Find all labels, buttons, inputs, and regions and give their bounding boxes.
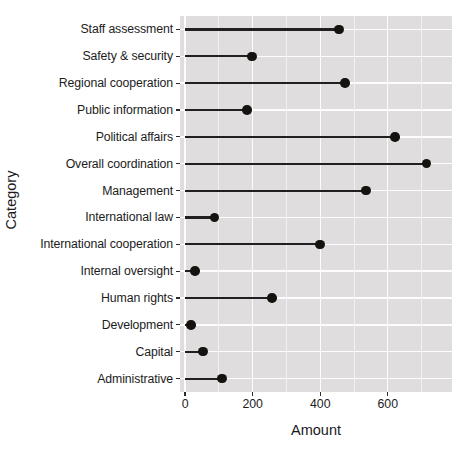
y-axis-tick-international-law: International law xyxy=(85,210,180,224)
lollipop-stem xyxy=(185,109,247,111)
x-axis-tick-label: 200 xyxy=(242,397,263,411)
lollipop-marker xyxy=(217,374,227,384)
lollipop-marker xyxy=(190,266,200,276)
x-axis-title: Amount xyxy=(180,422,452,438)
x-axis: 0200400600 xyxy=(180,392,452,422)
y-axis-tick-label: Overall coordination xyxy=(66,157,173,171)
y-axis-tick-public-information: Public information xyxy=(77,103,180,117)
y-axis-tick-development: Development xyxy=(102,318,180,332)
vertical-gridline-minor xyxy=(218,16,219,392)
vertical-gridline-major xyxy=(320,16,321,392)
lollipop-stem xyxy=(185,28,339,30)
horizontal-gridline xyxy=(180,324,452,325)
lollipop-marker xyxy=(198,347,208,357)
y-axis-tick-label: International cooperation xyxy=(40,237,173,251)
y-axis-tick-international-cooperation: International cooperation xyxy=(40,237,180,251)
vertical-gridline-minor xyxy=(421,16,422,392)
y-axis-title-text: Category xyxy=(3,171,19,230)
lollipop-stem xyxy=(185,163,426,165)
y-axis-tick-administrative: Administrative xyxy=(97,372,180,386)
y-axis-tick-capital: Capital xyxy=(135,345,180,359)
vertical-gridline-minor xyxy=(286,16,287,392)
lollipop-stem xyxy=(185,243,320,245)
y-axis-tick-label: Capital xyxy=(135,345,173,359)
x-axis-tick-mark xyxy=(184,392,185,396)
y-axis-tick-staff-assessment: Staff assessment xyxy=(81,22,181,36)
vertical-gridline-major xyxy=(387,16,388,392)
vertical-gridline-major xyxy=(184,16,185,392)
y-axis-tick-human-rights: Human rights xyxy=(101,291,180,305)
x-axis-tick-mark xyxy=(320,392,321,396)
y-axis-tick-regional-cooperation: Regional cooperation xyxy=(59,76,180,90)
y-axis-tick-label: International law xyxy=(85,210,173,224)
y-axis-tick-label: Administrative xyxy=(97,372,173,386)
y-axis-tick-label: Management xyxy=(102,184,173,198)
y-axis-tick-safety-security: Safety & security xyxy=(82,49,180,63)
vertical-gridline-minor xyxy=(354,16,355,392)
y-axis-tick-label: Internal oversight xyxy=(80,264,173,278)
horizontal-gridline xyxy=(180,217,452,218)
x-axis-tick-mark xyxy=(252,392,253,396)
x-axis-tick-mark xyxy=(387,392,388,396)
y-axis-tick-label: Development xyxy=(102,318,173,332)
lollipop-stem xyxy=(185,55,252,57)
x-axis-tick-label: 600 xyxy=(378,397,399,411)
y-axis-tick-label: Regional cooperation xyxy=(59,76,173,90)
x-axis-tick-label: 400 xyxy=(310,397,331,411)
lollipop-marker xyxy=(242,105,252,115)
y-axis-tick-overall-coordination: Overall coordination xyxy=(66,157,180,171)
lollipop-stem xyxy=(185,190,366,192)
lollipop-stem xyxy=(185,82,345,84)
x-axis-tick-label: 0 xyxy=(182,397,189,411)
lollipop-marker xyxy=(247,52,257,62)
lollipop-marker xyxy=(390,132,400,142)
lollipop-chart: Category Staff assessmentSafety & securi… xyxy=(0,0,460,456)
y-axis-tick-label: Public information xyxy=(77,103,173,117)
y-axis-tick-label: Human rights xyxy=(101,291,173,305)
lollipop-marker xyxy=(422,159,432,169)
lollipop-marker xyxy=(186,320,196,330)
lollipop-marker xyxy=(315,240,325,250)
vertical-gridline-major xyxy=(252,16,253,392)
lollipop-marker xyxy=(267,293,277,303)
y-axis-title: Category xyxy=(0,0,22,400)
y-axis-tick-label: Safety & security xyxy=(82,49,173,63)
y-axis-tick-labels: Staff assessmentSafety & securityRegiona… xyxy=(20,16,180,392)
lollipop-stem xyxy=(185,136,395,138)
lollipop-marker xyxy=(340,78,350,88)
y-axis-tick-label: Staff assessment xyxy=(81,22,174,36)
plot-panel xyxy=(180,16,452,392)
y-axis-tick-label: Political affairs xyxy=(96,130,173,144)
lollipop-stem xyxy=(185,297,272,299)
horizontal-gridline xyxy=(180,270,452,271)
horizontal-gridline xyxy=(180,351,452,352)
y-axis-tick-management: Management xyxy=(102,184,180,198)
y-axis-tick-political-affairs: Political affairs xyxy=(96,130,180,144)
lollipop-marker xyxy=(361,186,371,196)
y-axis-tick-internal-oversight: Internal oversight xyxy=(80,264,180,278)
lollipop-marker xyxy=(334,25,344,35)
